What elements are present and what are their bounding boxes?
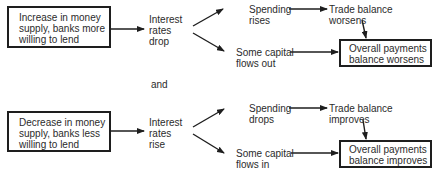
capital-flows-in-label: Some capital flows in: [236, 148, 294, 170]
interest-rates-drop-label: Interest rates drop: [149, 14, 182, 47]
cause-text-increase: Increase in money supply, banks more wil…: [19, 12, 105, 45]
result-text-worsens: Overall payments balance worsens: [349, 43, 427, 65]
interest-rates-rise-label: Interest rates rise: [149, 117, 182, 150]
trade-balance-improves-label: Trade balance improves: [329, 103, 393, 125]
cause-box-increase: Increase in money supply, banks more wil…: [7, 6, 111, 48]
result-box-worsens: Overall payments balance worsens: [339, 39, 432, 67]
trade-balance-worsens-label: Trade balance worsens: [329, 4, 393, 26]
capital-flows-out-label: Some capital flows out: [236, 47, 294, 69]
result-text-improves: Overall payments balance improves: [349, 144, 427, 166]
spending-rises-label: Spending rises: [249, 4, 291, 26]
and-connector-label: and: [151, 79, 168, 90]
cause-box-decrease: Decrease in money supply, banks less wil…: [7, 111, 111, 152]
result-box-improves: Overall payments balance improves: [339, 140, 432, 168]
spending-drops-label: Spending drops: [249, 103, 291, 125]
cause-text-decrease: Decrease in money supply, banks less wil…: [19, 117, 105, 150]
